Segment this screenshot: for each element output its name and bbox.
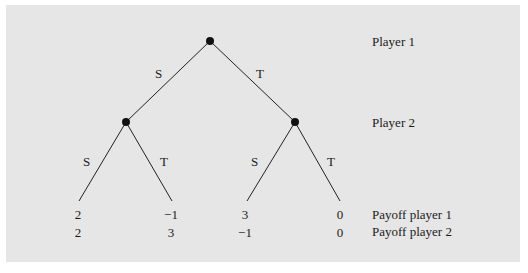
player1-label: Player 1 xyxy=(372,35,415,49)
leaf2-payoff-p1: −1 xyxy=(161,208,181,222)
left-node-move-t: T xyxy=(160,155,168,169)
leaf2-payoff-p2: 3 xyxy=(161,226,181,240)
right-node-move-t: T xyxy=(327,155,335,169)
root-node xyxy=(206,37,214,45)
root-move-s: S xyxy=(155,67,162,81)
payoff-player1-label: Payoff player 1 xyxy=(372,208,452,222)
payoff-player2-label: Payoff player 2 xyxy=(372,225,452,239)
right-node-move-s: S xyxy=(251,155,258,169)
leaf3-payoff-p2: −1 xyxy=(235,226,255,240)
leaf3-payoff-p1: 3 xyxy=(235,208,255,222)
leaf1-payoff-p2: 2 xyxy=(68,226,88,240)
leaf1-payoff-p1: 2 xyxy=(68,208,88,222)
player2-right-node xyxy=(291,118,299,126)
leaf4-payoff-p1: 0 xyxy=(330,208,350,222)
left-node-move-s: S xyxy=(83,155,90,169)
player2-left-node xyxy=(122,118,130,126)
root-move-t: T xyxy=(256,67,264,81)
leaf4-payoff-p2: 0 xyxy=(330,226,350,240)
player2-label: Player 2 xyxy=(372,116,415,130)
